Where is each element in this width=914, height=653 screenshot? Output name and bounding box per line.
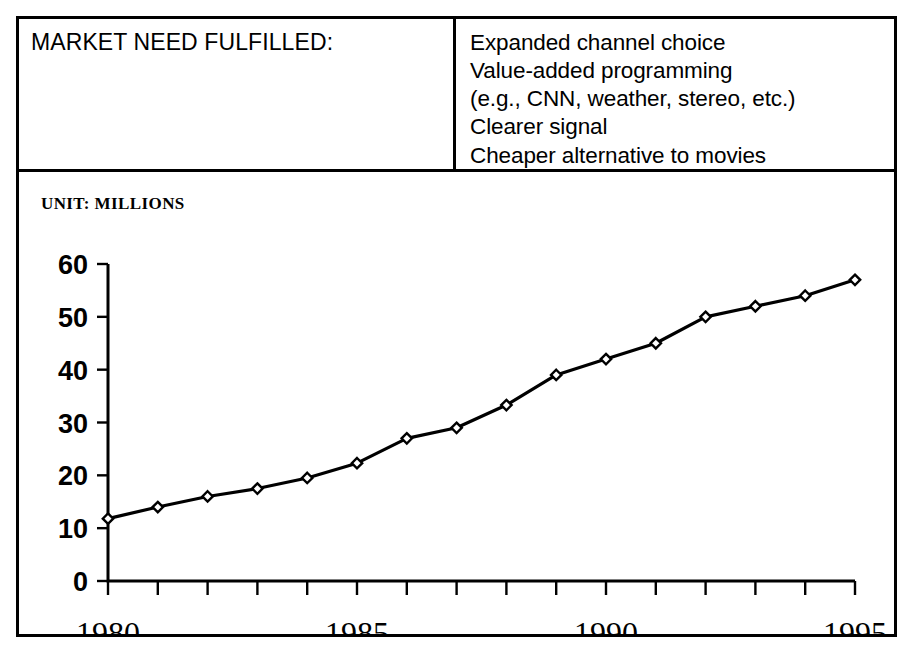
bullet-item: Value-added programming — [470, 57, 894, 85]
data-point-marker — [202, 491, 212, 501]
series-line — [108, 280, 855, 519]
line-chart: 60504030201001980198519901995 — [19, 172, 894, 634]
data-point-marker — [750, 301, 760, 311]
data-point-marker — [103, 513, 113, 523]
x-tick-label: 1985 — [325, 615, 389, 634]
x-tick-label: 1995 — [823, 615, 887, 634]
page-title: MARKET NEED FULFILLED: — [31, 29, 453, 57]
data-point-marker — [302, 473, 312, 483]
y-tick-label: 60 — [58, 250, 88, 280]
chart-pane: UNIT: MILLIONS 6050403020100198019851990… — [19, 172, 894, 634]
y-tick-label: 50 — [58, 303, 88, 333]
data-point-marker — [601, 354, 611, 364]
bullet-item: Expanded channel choice — [470, 29, 894, 57]
data-point-marker — [850, 275, 860, 285]
x-tick-label: 1990 — [574, 615, 638, 634]
figure-frame: MARKET NEED FULFILLED: Expanded channel … — [16, 16, 897, 637]
y-tick-label: 40 — [58, 356, 88, 386]
bullet-item: (e.g., CNN, weather, stereo, etc.) — [470, 85, 894, 113]
data-point-marker — [800, 291, 810, 301]
x-tick-label: 1980 — [76, 615, 140, 634]
page-root: MARKET NEED FULFILLED: Expanded channel … — [0, 0, 914, 653]
data-point-marker — [451, 423, 461, 433]
y-tick-label: 10 — [58, 514, 88, 544]
bullet-item: Clearer signal — [470, 113, 894, 141]
y-tick-label: 0 — [73, 567, 88, 597]
data-point-marker — [252, 483, 262, 493]
chart-axes — [108, 264, 855, 581]
data-point-marker — [402, 433, 412, 443]
y-tick-label: 30 — [58, 409, 88, 439]
bullet-item: Cheaper alternative to movies — [470, 142, 894, 170]
header-bullets-cell: Expanded channel choice Value-added prog… — [456, 19, 894, 169]
data-point-marker — [352, 458, 362, 468]
header-table: MARKET NEED FULFILLED: Expanded channel … — [19, 19, 894, 172]
y-tick-label: 20 — [58, 461, 88, 491]
header-label-cell: MARKET NEED FULFILLED: — [19, 19, 456, 169]
data-point-marker — [153, 502, 163, 512]
